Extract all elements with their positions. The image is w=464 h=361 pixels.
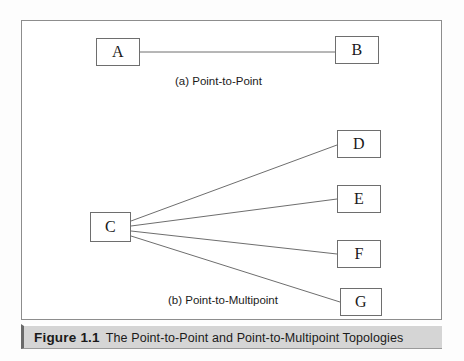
figure-page: A B (a) Point-to-Point C D E F G (b) Poi…	[0, 0, 464, 361]
figure-number: Figure 1.1	[34, 330, 100, 345]
node-box-d: D	[337, 130, 381, 158]
node-box-b: B	[335, 36, 379, 64]
figure-frame	[21, 20, 442, 320]
node-box-c: C	[90, 212, 131, 242]
figure-caption-bar: Figure 1.1The Point-to-Point and Point-t…	[21, 324, 442, 349]
node-label-c: C	[105, 219, 116, 235]
node-label-g: G	[355, 294, 367, 310]
figure-caption: Figure 1.1The Point-to-Point and Point-t…	[34, 330, 403, 345]
figure-caption-text: The Point-to-Point and Point-to-Multipoi…	[106, 331, 404, 345]
node-label-a: A	[112, 44, 124, 60]
node-box-a: A	[96, 38, 140, 66]
node-label-b: B	[352, 42, 363, 58]
node-box-g: G	[340, 288, 382, 316]
sub-caption-point-to-point: (a) Point-to-Point	[175, 75, 262, 87]
node-label-f: F	[354, 246, 363, 262]
sub-caption-point-to-multipoint: (b) Point-to-Multipoint	[168, 294, 278, 306]
node-box-e: E	[337, 185, 381, 213]
node-label-e: E	[354, 191, 364, 207]
node-box-f: F	[337, 240, 381, 268]
node-label-d: D	[353, 136, 365, 152]
